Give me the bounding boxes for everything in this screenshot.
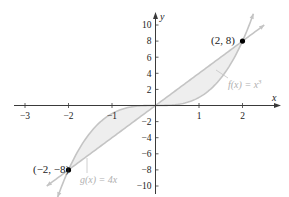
arrowhead-icon [250, 14, 254, 19]
f-curve-label: f(x) = x3 [228, 78, 262, 91]
x-axis-arrow-icon [274, 103, 281, 108]
point-label-upper: (2, 8) [211, 34, 235, 47]
y-tick-label: −10 [137, 181, 152, 191]
x-axis-label: x [271, 92, 277, 103]
y-tick-label: 10 [142, 20, 152, 30]
graph: −3−2−112108642−2−4−6−8−10 x y (2, 8) (−2… [0, 0, 289, 197]
arrowhead-icon [57, 192, 61, 197]
y-tick-label: −2 [141, 117, 151, 127]
y-tick-label: −6 [141, 149, 151, 159]
x-tick-label: 1 [197, 111, 202, 121]
f-label-main: f(x) = x [228, 79, 259, 91]
y-tick-label: 2 [147, 85, 152, 95]
y-tick-label: −4 [141, 133, 151, 143]
y-tick-label: 8 [147, 36, 152, 46]
y-tick-label: 4 [147, 69, 152, 79]
y-axis-label: y [159, 11, 165, 22]
x-tick-label: 2 [240, 111, 245, 121]
x-tick-label: −2 [63, 111, 73, 121]
point-upper [240, 39, 245, 44]
y-tick-label: −8 [141, 165, 151, 175]
y-axis-arrow-icon [153, 12, 158, 19]
g-curve-label: g(x) = 4x [80, 174, 118, 186]
point-label-lower: (−2, −8) [33, 163, 70, 176]
x-tick-label: −1 [107, 111, 117, 121]
x-tick-label: −3 [20, 111, 30, 121]
y-tick-label: 6 [147, 53, 152, 63]
f-label-exponent: 3 [257, 78, 262, 86]
